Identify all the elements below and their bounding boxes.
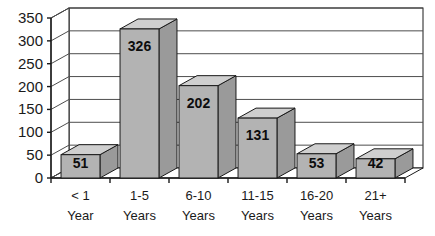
- y-axis-tick-label: 300: [18, 32, 43, 49]
- y-axis-tick-label: 350: [18, 9, 43, 26]
- x-axis-category-label: Year: [67, 208, 94, 223]
- x-axis-ticks: [51, 178, 405, 183]
- x-axis-category-label: Years: [300, 208, 333, 223]
- x-axis-category-label: Years: [123, 208, 156, 223]
- bar-side-face: [277, 108, 295, 178]
- y-axis-tick-label: 0: [35, 169, 43, 186]
- x-axis-category-label: 16-20: [300, 188, 333, 203]
- bar-value-label: 51: [73, 155, 89, 171]
- bar-value-label: 131: [246, 127, 270, 143]
- x-axis-category-label: Years: [359, 208, 392, 223]
- bar: 53: [297, 144, 354, 178]
- x-axis-category-label: 1-5: [130, 188, 149, 203]
- y-axis-tick-label: 150: [18, 100, 43, 117]
- x-axis-category-labels: < 1Year1-5Years6-10Years11-15Years16-20Y…: [67, 188, 392, 223]
- y-axis-tick-labels: 050100150200250300350: [18, 9, 43, 186]
- bar-value-label: 53: [309, 155, 325, 171]
- chart-canvas: 050100150200250300350 425313120232651 < …: [0, 0, 435, 236]
- y-axis-tick-label: 50: [26, 146, 43, 163]
- bar-side-face: [159, 19, 177, 178]
- y-axis-tick-label: 100: [18, 123, 43, 140]
- bar-chart: 050100150200250300350 425313120232651 < …: [0, 0, 435, 236]
- x-axis-category-label: Years: [182, 208, 215, 223]
- bar-value-label: 326: [128, 38, 152, 54]
- x-axis-category-label: Years: [241, 208, 274, 223]
- bar-value-label: 42: [368, 155, 384, 171]
- bar-side-face: [218, 76, 236, 178]
- bar-value-label: 202: [187, 95, 211, 111]
- x-axis-category-label: 6-10: [185, 188, 211, 203]
- x-axis-category-label: 11-15: [241, 188, 273, 203]
- y-axis-tick-label: 200: [18, 78, 43, 95]
- bar: 51: [61, 145, 118, 178]
- bar: 131: [238, 108, 295, 178]
- bar: 202: [179, 76, 236, 178]
- y-axis-tick-label: 250: [18, 55, 43, 72]
- x-axis-category-label: < 1: [71, 188, 89, 203]
- x-axis-category-label: 21+: [364, 188, 386, 203]
- bar: 326: [120, 19, 177, 178]
